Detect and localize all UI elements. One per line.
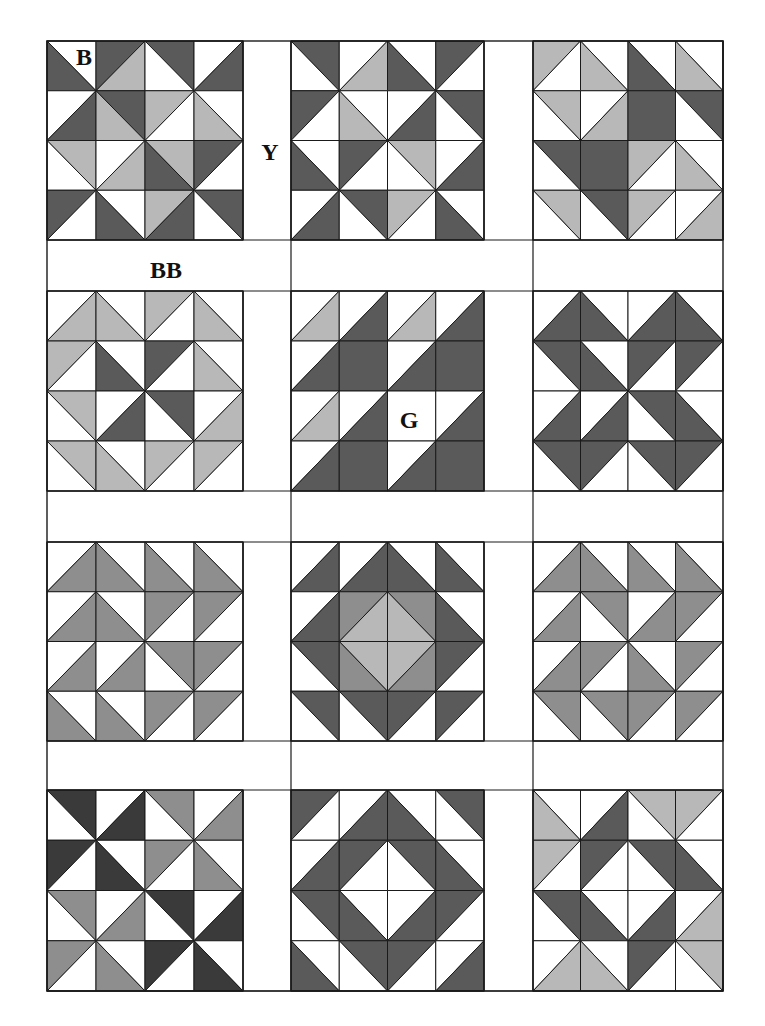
block-r3-c2 xyxy=(291,542,484,741)
block-r1-c3 xyxy=(533,41,723,240)
block-r4-c2 xyxy=(291,790,484,991)
label-y: Y xyxy=(261,140,278,164)
block-r2-c2 xyxy=(291,291,484,491)
block-r2-c1 xyxy=(47,291,243,491)
label-b: B xyxy=(76,45,92,69)
quilt-diagram xyxy=(0,0,765,1026)
quilt-blocks xyxy=(47,41,723,991)
label-bb: BB xyxy=(150,258,182,282)
label-g: G xyxy=(400,408,419,432)
block-r1-c1 xyxy=(47,41,243,240)
block-r2-c3 xyxy=(533,291,723,491)
block-r3-c3 xyxy=(533,542,723,741)
block-r4-c1 xyxy=(47,790,243,991)
block-r4-c3 xyxy=(533,790,723,991)
block-r1-c2 xyxy=(291,41,484,240)
block-r3-c1 xyxy=(47,542,243,741)
